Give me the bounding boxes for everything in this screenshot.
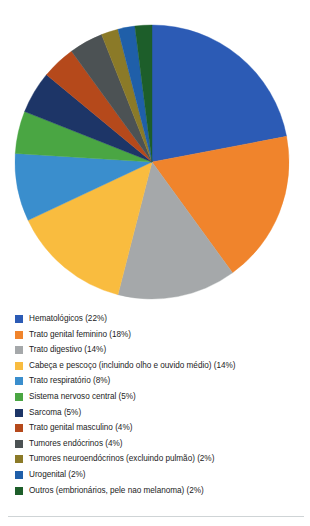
legend-swatch-icon bbox=[15, 393, 23, 401]
legend-item-label: Urogenital (2%) bbox=[29, 468, 86, 481]
pie-chart-figure: Hematológicos (22%)Trato genital feminin… bbox=[0, 0, 310, 526]
pie-chart-svg bbox=[0, 0, 310, 312]
legend-swatch-icon bbox=[15, 455, 23, 463]
chart-legend: Hematológicos (22%)Trato genital feminin… bbox=[0, 312, 310, 499]
legend-swatch-icon bbox=[15, 471, 23, 479]
legend-item: Cabeça e pescoço (incluindo olho e ouvid… bbox=[0, 359, 310, 375]
legend-item-label: Trato genital feminino (18%) bbox=[29, 328, 131, 341]
legend-swatch-icon bbox=[15, 331, 23, 339]
legend-item: Outros (embrionários, pele nao melanoma)… bbox=[0, 484, 310, 500]
legend-item-label: Hematológicos (22%) bbox=[29, 312, 107, 325]
pie-chart-plot-area bbox=[0, 0, 310, 312]
legend-item: Trato respiratório (8%) bbox=[0, 374, 310, 390]
footer-divider bbox=[8, 516, 304, 517]
legend-swatch-icon bbox=[15, 315, 23, 323]
legend-swatch-icon bbox=[15, 362, 23, 370]
legend-item-label: Trato digestivo (14%) bbox=[29, 343, 106, 356]
legend-item-label: Tumores endócrinos (4%) bbox=[29, 437, 122, 450]
legend-item: Sistema nervoso central (5%) bbox=[0, 390, 310, 406]
legend-item: Tumores endócrinos (4%) bbox=[0, 437, 310, 453]
legend-item: Sarcoma (5%) bbox=[0, 406, 310, 422]
legend-swatch-icon bbox=[15, 440, 23, 448]
legend-swatch-icon bbox=[15, 409, 23, 417]
legend-swatch-icon bbox=[15, 424, 23, 432]
legend-item-label: Cabeça e pescoço (incluindo olho e ouvid… bbox=[29, 359, 235, 372]
legend-item-label: Sarcoma (5%) bbox=[29, 406, 81, 419]
legend-item-label: Sistema nervoso central (5%) bbox=[29, 390, 136, 403]
legend-item-label: Outros (embrionários, pele nao melanoma)… bbox=[29, 484, 204, 497]
legend-swatch-icon bbox=[15, 487, 23, 495]
legend-item-label: Trato respiratório (8%) bbox=[29, 374, 110, 387]
legend-item-label: Trato genital masculino (4%) bbox=[29, 421, 132, 434]
legend-item: Trato digestivo (14%) bbox=[0, 343, 310, 359]
legend-item: Tumores neuroendócrinos (excluindo pulmã… bbox=[0, 452, 310, 468]
legend-item-label: Tumores neuroendócrinos (excluindo pulmã… bbox=[29, 452, 214, 465]
legend-item: Trato genital masculino (4%) bbox=[0, 421, 310, 437]
legend-swatch-icon bbox=[15, 346, 23, 354]
legend-swatch-icon bbox=[15, 377, 23, 385]
legend-item: Urogenital (2%) bbox=[0, 468, 310, 484]
legend-item: Trato genital feminino (18%) bbox=[0, 328, 310, 344]
legend-item: Hematológicos (22%) bbox=[0, 312, 310, 328]
